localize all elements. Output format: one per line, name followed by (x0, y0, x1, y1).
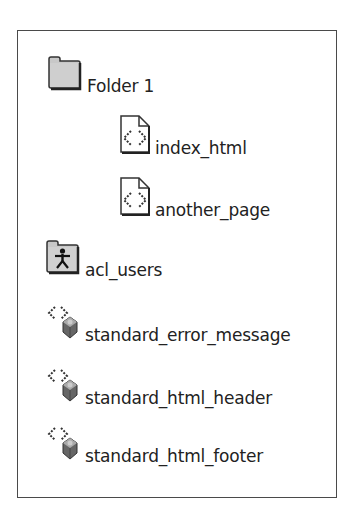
dtml-document-icon (119, 114, 151, 158)
tree-item-folder-1[interactable]: Folder 1 (47, 56, 154, 96)
folder-icon (47, 56, 83, 96)
tree-item-standard-error-message[interactable]: standard_error_message (47, 305, 291, 345)
tree-item-standard-html-footer[interactable]: standard_html_footer (47, 426, 263, 466)
tree-item-label: standard_html_header (85, 388, 272, 408)
tree-item-label: index_html (155, 138, 247, 158)
tree-item-label: Folder 1 (87, 76, 154, 96)
tree-item-acl-users[interactable]: acl_users (45, 240, 162, 280)
tree-item-label: standard_error_message (85, 325, 291, 345)
tree-item-index-html[interactable]: index_html (119, 114, 247, 158)
dtml-method-icon (47, 426, 81, 466)
dtml-method-icon (47, 368, 81, 408)
tree-item-label: acl_users (85, 260, 162, 280)
tree-item-label: standard_html_footer (85, 446, 263, 466)
tree-item-another-page[interactable]: another_page (119, 176, 270, 220)
tree-item-label: another_page (155, 200, 270, 220)
user-folder-icon (45, 240, 81, 280)
tree-item-standard-html-header[interactable]: standard_html_header (47, 368, 272, 408)
dtml-method-icon (47, 305, 81, 345)
dtml-document-icon (119, 176, 151, 220)
